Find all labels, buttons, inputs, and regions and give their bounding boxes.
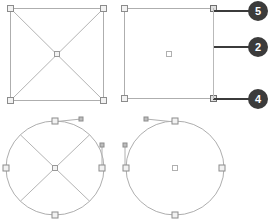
handle-center[interactable] <box>53 166 58 171</box>
handle-top[interactable] <box>52 118 58 124</box>
handle-right[interactable] <box>99 165 105 171</box>
tangent-endpoint-right[interactable] <box>100 143 104 147</box>
callout-badge-4[interactable]: 4 <box>248 89 268 109</box>
vector-drawing <box>0 0 271 222</box>
handle-bottom[interactable] <box>172 212 178 218</box>
tangent-endpoint-top[interactable] <box>144 117 148 121</box>
callout-badge-2[interactable]: 2 <box>248 37 268 57</box>
handle-bottom-left[interactable] <box>122 96 128 102</box>
handle-top-left[interactable] <box>8 6 14 12</box>
handle-bottom-right[interactable] <box>101 98 107 104</box>
tangent-endpoint-left[interactable] <box>123 143 127 147</box>
handle-left[interactable] <box>123 165 129 171</box>
handle-center[interactable] <box>167 52 172 57</box>
shape-square-with-diagonals[interactable] <box>8 6 107 104</box>
handle-top-right[interactable] <box>101 6 107 12</box>
callout-leader-lines <box>213 8 250 99</box>
callout-badge-5[interactable]: 5 <box>248 1 268 21</box>
handle-top[interactable] <box>172 118 178 124</box>
shape-circle-plain[interactable] <box>123 117 225 218</box>
shape-circle-with-diagonals[interactable] <box>3 117 105 218</box>
shape-square-plain[interactable] <box>122 6 217 102</box>
handle-center[interactable] <box>55 52 60 57</box>
tangent-endpoint-top[interactable] <box>79 117 83 121</box>
handle-right[interactable] <box>219 165 225 171</box>
handle-bottom[interactable] <box>52 212 58 218</box>
handle-bottom-left[interactable] <box>8 98 14 104</box>
handle-top-left[interactable] <box>122 6 128 12</box>
handle-left[interactable] <box>3 165 9 171</box>
diagram-canvas: 5 2 4 <box>0 0 271 222</box>
handle-center[interactable] <box>173 166 178 171</box>
tangent-line-top[interactable] <box>146 119 175 122</box>
